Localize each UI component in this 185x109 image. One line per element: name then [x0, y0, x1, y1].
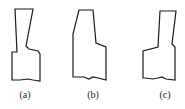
- shape-a-outline: [12, 9, 40, 81]
- shape-b-outline: [73, 10, 106, 80]
- shape-c-outline: [143, 11, 176, 80]
- label-a: (a): [19, 89, 30, 100]
- label-c: (c): [159, 89, 170, 100]
- label-b: (b): [87, 89, 99, 100]
